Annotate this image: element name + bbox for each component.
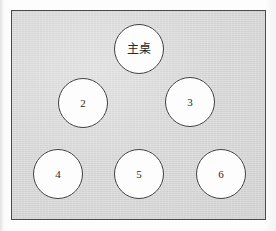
table-node-label: 5	[136, 169, 142, 180]
table-node-head-table[interactable]: 主桌	[114, 24, 164, 74]
table-node-table-5[interactable]: 5	[114, 149, 164, 199]
table-node-label: 4	[55, 169, 61, 180]
table-node-label: 主桌	[127, 43, 152, 55]
table-node-table-2[interactable]: 2	[58, 78, 108, 128]
table-node-label: 6	[218, 169, 224, 180]
table-node-table-3[interactable]: 3	[165, 77, 215, 127]
table-node-table-4[interactable]: 4	[33, 149, 83, 199]
table-node-label: 3	[187, 97, 193, 108]
table-node-table-6[interactable]: 6	[196, 149, 246, 199]
table-node-label: 2	[80, 98, 86, 109]
scanned-page: 主桌23456	[0, 0, 276, 231]
